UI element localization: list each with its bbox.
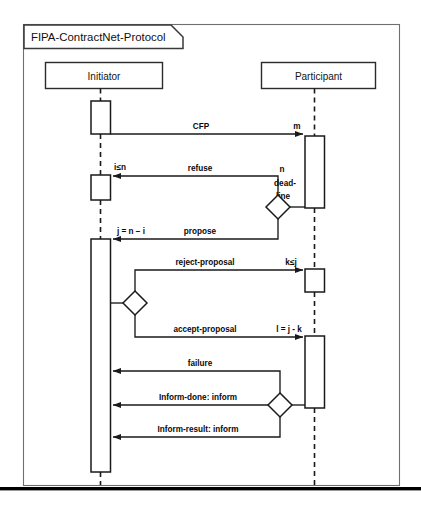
refuse-label: refuse [188, 164, 213, 173]
frame-title-label: FIPA-ContractNet-Protocol [31, 31, 166, 43]
participant-activation-2 [305, 269, 325, 292]
failure-label: failure [188, 359, 213, 368]
participant-activation-3 [305, 336, 325, 408]
cfp-guard-label: m [293, 122, 300, 131]
participant-activation-1 [305, 136, 325, 208]
propose-guard-label: j = n − i [116, 227, 145, 236]
interaction-frame: FIPA-ContractNet-Protocol [24, 25, 400, 486]
footer-divider-bar [0, 487, 421, 490]
sequence-diagram-canvas: FIPA-ContractNet-Protocol Initiator Part… [0, 0, 421, 511]
cfp-label: CFP [193, 122, 210, 131]
participant-name-label: Participant [295, 71, 342, 82]
actor-participant[interactable]: Participant [262, 63, 376, 89]
inform-result-label: Inform-result: inform [158, 425, 239, 434]
deadline-label-line2: dead- [274, 179, 296, 188]
reject-proposal-label: reject-proposal [175, 258, 234, 267]
actor-initiator[interactable]: Initiator [46, 63, 163, 89]
initiator-activation-2 [91, 175, 111, 200]
accept-proposal-guard-label: l = j - k [276, 325, 302, 334]
initiator-activation-1 [91, 101, 111, 134]
initiator-activation-3 [91, 239, 111, 472]
accept-proposal-label: accept-proposal [173, 325, 236, 334]
refuse-guard-label: i≤n [114, 163, 126, 172]
initiator-name-label: Initiator [88, 71, 121, 82]
deadline-label-line1: n [279, 165, 284, 174]
propose-label: propose [184, 227, 217, 236]
reject-proposal-guard-label: k≤j [285, 258, 296, 267]
frame-border [24, 25, 400, 486]
inform-done-label: Inform-done: inform [159, 393, 237, 402]
